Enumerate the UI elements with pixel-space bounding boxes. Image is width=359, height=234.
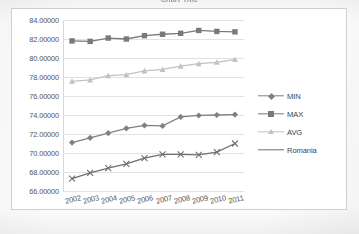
- y-axis-tick-label: 84.00000: [29, 16, 59, 25]
- data-point-marker: [87, 39, 92, 44]
- data-point-marker: [196, 112, 202, 118]
- chart-frame: 84.0000082.0000080.0000078.0000076.00000…: [11, 8, 347, 210]
- x-axis-tick-label: 2004: [100, 193, 118, 205]
- x-axis-tick-label: 2006: [137, 193, 155, 205]
- data-point-marker: [159, 123, 165, 129]
- series-romania: [69, 141, 238, 182]
- legend-label: MIN: [287, 92, 301, 101]
- data-point-marker: [105, 130, 111, 136]
- data-point-marker: [214, 112, 220, 118]
- legend-marker-square-icon: [268, 111, 273, 116]
- data-point-marker: [214, 29, 219, 34]
- x-axis-tick-label: 2011: [227, 193, 244, 205]
- y-axis-tick-label: 80.00000: [29, 54, 59, 63]
- legend-key: [258, 144, 284, 156]
- data-point-marker: [124, 36, 129, 41]
- series-line: [72, 59, 235, 81]
- legend-item-max[interactable]: MAX: [258, 105, 350, 123]
- x-axis-labels: 2002200320042005200620072008200920102011: [63, 193, 244, 219]
- legend-marker-diamond-icon: [267, 92, 274, 99]
- series-line: [72, 30, 235, 41]
- data-point-marker: [232, 29, 237, 34]
- data-point-marker: [178, 31, 183, 36]
- gridline: [63, 191, 244, 192]
- chart-legend: MINMAXAVGRomania: [258, 87, 350, 159]
- data-point-marker: [142, 33, 147, 38]
- legend-label: MAX: [287, 110, 303, 119]
- y-axis-tick-label: 78.00000: [29, 73, 59, 82]
- series-avg: [69, 56, 238, 83]
- data-point-marker: [178, 114, 184, 120]
- chart-title: Chart Title: [0, 0, 359, 4]
- legend-key: [258, 126, 284, 138]
- legend-marker-triangle-icon: [268, 129, 274, 134]
- x-axis-tick-label: 2003: [82, 193, 100, 205]
- x-axis-tick-label: 2009: [191, 193, 209, 205]
- x-axis-tick-label: 2002: [64, 193, 82, 205]
- data-point-marker: [160, 32, 165, 37]
- series-line: [72, 144, 235, 179]
- series-line: [72, 115, 235, 143]
- x-axis-tick-label: 2010: [209, 193, 227, 205]
- data-point-marker: [106, 35, 111, 40]
- data-point-marker: [69, 38, 74, 43]
- y-axis-tick-label: 68.00000: [29, 168, 59, 177]
- x-axis-tick-label: 2008: [173, 193, 191, 205]
- legend-key: [258, 90, 284, 102]
- legend-item-romania[interactable]: Romania: [258, 141, 350, 159]
- y-axis-tick-label: 82.00000: [29, 35, 59, 44]
- series-max: [69, 28, 237, 44]
- x-axis-tick-label: 2007: [155, 193, 173, 205]
- data-point-marker: [141, 122, 147, 128]
- data-point-marker: [196, 28, 201, 33]
- legend-item-min[interactable]: MIN: [258, 87, 350, 105]
- data-point-marker: [232, 141, 238, 147]
- y-axis-tick-label: 70.00000: [29, 149, 59, 158]
- y-axis-tick-label: 74.00000: [29, 111, 59, 120]
- legend-key: [258, 108, 284, 120]
- chart-title-strip: Chart Title: [0, 0, 359, 7]
- data-point-marker: [232, 111, 238, 117]
- x-axis-tick-label: 2005: [119, 193, 137, 205]
- legend-label: AVG: [287, 128, 302, 137]
- legend-item-avg[interactable]: AVG: [258, 123, 350, 141]
- y-axis-tick-label: 76.00000: [29, 92, 59, 101]
- data-point-marker: [87, 135, 93, 141]
- y-axis-tick-label: 66.00000: [29, 187, 59, 196]
- series-layer: [63, 20, 244, 191]
- data-point-marker: [123, 125, 129, 131]
- legend-line: [258, 149, 284, 150]
- legend-label: Romania: [287, 146, 317, 155]
- y-axis-tick-label: 72.00000: [29, 130, 59, 139]
- series-min: [69, 111, 238, 145]
- data-point-marker: [69, 139, 75, 145]
